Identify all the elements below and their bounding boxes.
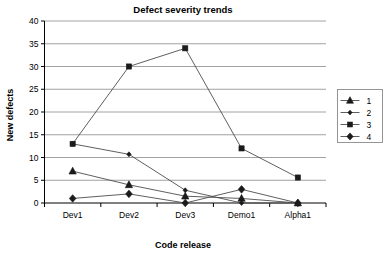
x-tick-label: Demo1 — [228, 210, 256, 220]
data-point — [238, 186, 245, 194]
y-tick-label: 35 — [29, 39, 39, 49]
series-line-3 — [73, 48, 298, 177]
legend-border — [338, 90, 383, 143]
legend-label: 1 — [367, 96, 372, 106]
data-point — [295, 175, 300, 180]
legend-label: 4 — [367, 132, 372, 142]
x-tick-label: Alpha1 — [285, 210, 312, 220]
data-point — [183, 46, 188, 51]
series-3 — [70, 46, 300, 180]
chart-title: Defect severity trends — [133, 4, 232, 15]
y-tick-label: 10 — [29, 153, 39, 163]
data-point — [182, 199, 189, 207]
data-series — [69, 46, 302, 207]
x-tick-label: Dev1 — [63, 210, 83, 220]
y-axis-tick-marks — [41, 21, 45, 203]
legend-label: 3 — [367, 120, 372, 130]
y-tick-label: 20 — [29, 107, 39, 117]
x-axis-tick-labels: Dev1Dev2Dev3Demo1Alpha1 — [63, 210, 312, 220]
y-tick-label: 30 — [29, 62, 39, 72]
y-axis-title: New defects — [5, 89, 15, 142]
y-axis-tick-labels: 0510152025303540 — [29, 16, 39, 208]
data-point — [127, 152, 132, 157]
legend: 1234 — [338, 90, 383, 143]
y-tick-label: 0 — [34, 198, 39, 208]
x-axis-title: Code release — [155, 240, 211, 250]
data-point — [126, 64, 131, 69]
data-point — [183, 188, 188, 193]
data-point — [69, 167, 76, 174]
y-tick-label: 40 — [29, 16, 39, 26]
chart-container: Defect severity trends New defects Code … — [0, 0, 389, 253]
data-point — [70, 141, 75, 146]
data-point — [69, 195, 76, 203]
y-tick-label: 15 — [29, 130, 39, 140]
gridlines — [45, 21, 327, 180]
legend-marker-square-icon — [348, 122, 353, 127]
y-tick-label: 5 — [34, 175, 39, 185]
x-tick-label: Dev2 — [119, 210, 139, 220]
data-point — [126, 190, 133, 198]
data-point — [239, 146, 244, 151]
legend-label: 2 — [367, 108, 372, 118]
defect-severity-trends-chart: Defect severity trends New defects Code … — [0, 0, 389, 253]
y-tick-label: 25 — [29, 84, 39, 94]
x-tick-label: Dev3 — [175, 210, 195, 220]
